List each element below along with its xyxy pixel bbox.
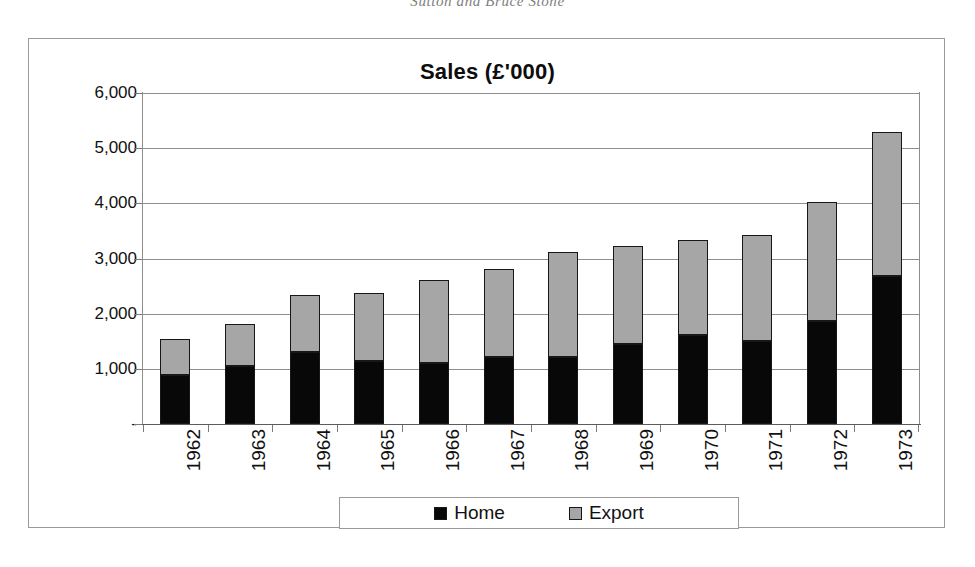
bar-segment-home[interactable] — [419, 363, 449, 424]
bar-segment-home[interactable] — [160, 375, 190, 424]
x-axis-tick-label: 1964 — [313, 429, 335, 493]
x-axis-tick-label: 1972 — [830, 429, 852, 493]
chart-title: Sales (£'000) — [29, 59, 946, 85]
bar-group[interactable] — [160, 339, 190, 424]
x-axis-tick-label: 1973 — [895, 429, 917, 493]
y-axis-tick — [134, 259, 142, 260]
bar-segment-export[interactable] — [419, 280, 449, 363]
x-axis-tick-label: 1965 — [377, 429, 399, 493]
y-axis-tick-label: 3,000 — [67, 249, 137, 269]
bar-segment-export[interactable] — [290, 295, 320, 352]
plot-border-right — [919, 92, 920, 425]
page-running-header: Sutton and Bruce Stone — [0, 0, 975, 7]
bar-group[interactable] — [613, 246, 643, 424]
y-axis-tick-label: 2,000 — [67, 304, 137, 324]
bar-segment-home[interactable] — [872, 276, 902, 424]
bar-group[interactable] — [290, 295, 320, 424]
bar-group[interactable] — [872, 132, 902, 424]
bar-group[interactable] — [678, 240, 708, 424]
x-axis-tick-label: 1969 — [636, 429, 658, 493]
bar-segment-export[interactable] — [548, 252, 578, 357]
legend-swatch-export-icon — [569, 507, 582, 520]
x-axis-tick-label: 1971 — [765, 429, 787, 493]
bar-segment-home[interactable] — [484, 357, 514, 424]
bar-segment-export[interactable] — [872, 132, 902, 276]
bar-segment-export[interactable] — [613, 246, 643, 344]
bar-group[interactable] — [807, 202, 837, 424]
x-axis-tick-label: 1966 — [442, 429, 464, 493]
x-axis-labels: 1962196319641965196619671968196919701971… — [143, 431, 919, 501]
bar-group[interactable] — [484, 269, 514, 424]
y-axis-tick-label: 5,000 — [67, 138, 137, 158]
bar-segment-home[interactable] — [225, 366, 255, 424]
bar-segment-home[interactable] — [613, 344, 643, 424]
y-axis-labels: 6,0005,0004,0003,0002,0001,000- — [59, 93, 137, 424]
bar-segment-export[interactable] — [225, 324, 255, 366]
gridline — [143, 314, 919, 315]
gridline — [143, 259, 919, 260]
y-axis-tick — [134, 369, 142, 370]
y-axis-tick — [134, 314, 142, 315]
plot-area — [143, 93, 919, 424]
legend-entry-export[interactable]: Export — [569, 502, 644, 524]
y-axis-tick-label: 4,000 — [67, 193, 137, 213]
x-axis-tick-label: 1968 — [571, 429, 593, 493]
bar-segment-home[interactable] — [548, 357, 578, 424]
bar-segment-export[interactable] — [807, 202, 837, 321]
bar-segment-export[interactable] — [678, 240, 708, 335]
bar-segment-home[interactable] — [678, 335, 708, 424]
chart-legend: Home Export — [339, 497, 739, 529]
y-axis-tick — [134, 148, 142, 149]
gridline — [143, 369, 919, 370]
bar-group[interactable] — [742, 235, 772, 424]
bar-segment-home[interactable] — [290, 352, 320, 424]
bar-group[interactable] — [548, 252, 578, 424]
bar-segment-export[interactable] — [354, 293, 384, 361]
legend-label-home: Home — [454, 502, 505, 524]
bar-group[interactable] — [354, 293, 384, 424]
x-axis-tick-label: 1963 — [248, 429, 270, 493]
bar-segment-home[interactable] — [354, 361, 384, 424]
x-axis-tick-label: 1962 — [183, 429, 205, 493]
y-axis-tick — [134, 93, 142, 94]
bar-segment-export[interactable] — [742, 235, 772, 341]
y-axis-tick-label: - — [67, 414, 137, 434]
gridline — [143, 93, 919, 94]
y-axis-tick-label: 1,000 — [67, 359, 137, 379]
legend-swatch-home-icon — [434, 507, 447, 520]
legend-entry-home[interactable]: Home — [434, 502, 505, 524]
bar-segment-export[interactable] — [160, 339, 190, 375]
bar-segment-home[interactable] — [742, 341, 772, 424]
bar-group[interactable] — [419, 280, 449, 424]
y-axis-tick-label: 6,000 — [67, 83, 137, 103]
bar-segment-home[interactable] — [807, 321, 837, 424]
bar-segment-export[interactable] — [484, 269, 514, 357]
gridline — [143, 148, 919, 149]
y-axis-tick — [134, 203, 142, 204]
y-axis-tick — [134, 424, 142, 425]
legend-label-export: Export — [589, 502, 644, 524]
x-axis-tick-label: 1970 — [701, 429, 723, 493]
gridline — [143, 203, 919, 204]
x-axis-tick-label: 1967 — [507, 429, 529, 493]
chart-frame: Sales (£'000) 6,0005,0004,0003,0002,0001… — [28, 38, 945, 528]
bar-group[interactable] — [225, 324, 255, 424]
